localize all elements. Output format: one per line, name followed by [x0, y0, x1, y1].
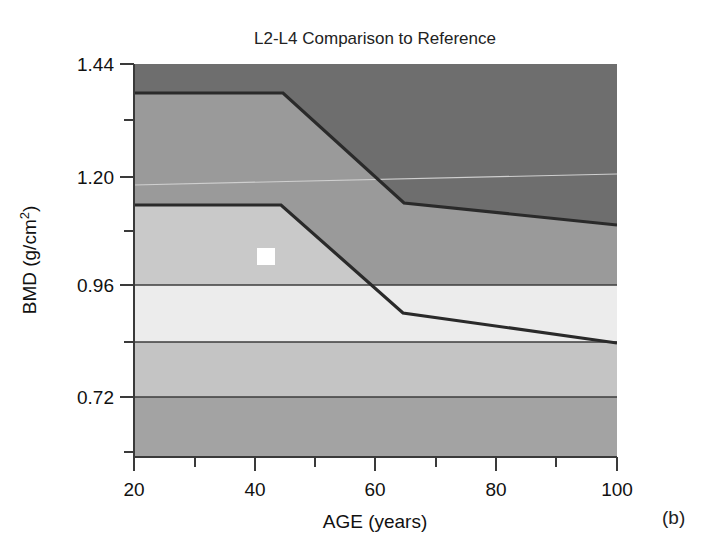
band-below-0p72: [134, 397, 617, 457]
panel-label: (b): [662, 507, 685, 528]
bmd-reference-chart: 1.44 1.20 0.96 0.72 20 40 60 80 100 L2-L…: [0, 0, 721, 557]
y-tick-label-1: 1.20: [77, 167, 114, 188]
patient-measurement-marker[interactable]: [257, 248, 275, 265]
x-axis-title: AGE (years): [323, 511, 428, 532]
band-0p84-to-0p72: [134, 342, 617, 397]
x-tick-label-1: 40: [244, 479, 265, 500]
y-axis-title: BMD (g/cm2): [17, 206, 40, 315]
y-tick-label-0: 1.44: [77, 54, 114, 75]
x-tick-label-3: 80: [485, 479, 506, 500]
y-tick-label-3: 0.72: [77, 387, 114, 408]
figure-panel: 1.44 1.20 0.96 0.72 20 40 60 80 100 L2-L…: [0, 0, 721, 557]
chart-title: L2-L4 Comparison to Reference: [254, 29, 496, 48]
x-tick-label-0: 20: [123, 479, 144, 500]
y-axis-ticks: [120, 64, 134, 452]
x-axis-ticks: [134, 457, 617, 471]
plot-bands-group: [134, 64, 617, 457]
y-tick-label-2: 0.96: [77, 275, 114, 296]
x-tick-label-2: 60: [364, 479, 385, 500]
x-tick-label-4: 100: [601, 479, 633, 500]
